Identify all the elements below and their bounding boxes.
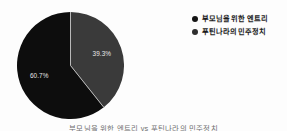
legend-item-label: 푸틴나라의 민주정치 [202,25,266,38]
legend-bullet-circle-icon [192,29,198,35]
chart-legend: 부모님을 위한 엔트리 푸틴나라의 민주정치 [192,12,287,38]
pie-slice-label-0: 60.7% [30,72,49,79]
legend-bullet-circle-icon [192,16,198,22]
figure-caption: 부모님을 위한 엔트리 vs 푸틴나라의 민주정치 [0,122,287,131]
pie-chart-plot-area: 39.3% 60.7% [17,12,124,119]
legend-item-0[interactable]: 부모님을 위한 엔트리 [192,12,287,25]
legend-item-label: 부모님을 위한 엔트리 [202,12,268,25]
figure-caption-clip: 부모님을 위한 엔트리 vs 푸틴나라의 민주정치 [0,122,287,131]
legend-item-1[interactable]: 푸틴나라의 민주정치 [192,25,287,38]
pie-chart-figure: 39.3% 60.7% 부모님을 위한 엔트리 푸틴나라의 민주정치 부모님을 … [0,0,287,131]
pie-slice-label-1: 39.3% [92,50,111,57]
pie-chart-svg: 39.3% 60.7% [17,12,124,119]
